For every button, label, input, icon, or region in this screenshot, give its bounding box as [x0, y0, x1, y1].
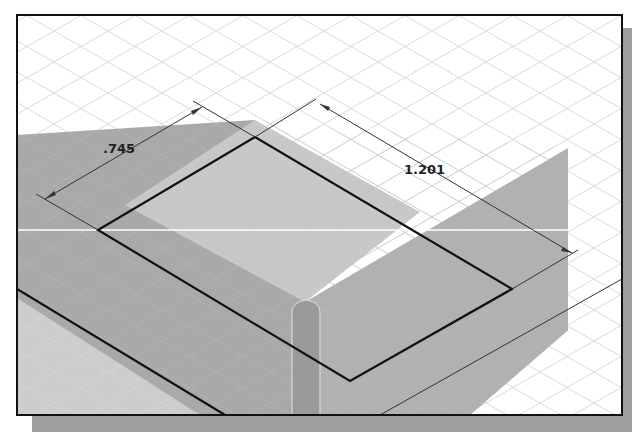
- axis-highlight-bar: [292, 300, 320, 415]
- right-strip-grid: [568, 148, 622, 415]
- cad-viewport[interactable]: .745 1.201: [0, 0, 644, 445]
- dimension-value[interactable]: .745: [103, 141, 135, 156]
- dimension-value[interactable]: 1.201: [404, 162, 445, 177]
